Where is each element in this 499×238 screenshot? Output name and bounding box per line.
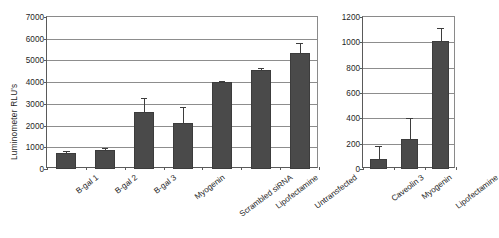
y-tick-label: 1000 bbox=[26, 143, 47, 152]
bar bbox=[95, 150, 115, 169]
error-bar-cap bbox=[219, 81, 225, 82]
bar bbox=[212, 82, 232, 169]
chart-panel-right: 020040060080010001200 Caveolin 3Myogenin… bbox=[320, 0, 459, 238]
x-tick-mark bbox=[456, 167, 457, 170]
y-tick-label: 0 bbox=[39, 165, 47, 174]
bar bbox=[134, 112, 154, 169]
x-tick-mark bbox=[394, 167, 395, 170]
error-bar-cap bbox=[296, 43, 302, 44]
error-bar-cap bbox=[258, 68, 264, 69]
error-bar bbox=[441, 28, 442, 41]
error-bar-cap bbox=[141, 98, 147, 99]
error-bar bbox=[144, 98, 145, 112]
y-tick-label: 4000 bbox=[26, 78, 47, 87]
gridline bbox=[47, 39, 317, 40]
gridline bbox=[47, 60, 317, 61]
bar bbox=[432, 41, 449, 169]
error-bar bbox=[300, 43, 301, 53]
plot-area-left: 01000200030004000500060007000 bbox=[46, 16, 318, 168]
x-tick-label: Myogenin bbox=[193, 173, 226, 201]
y-tick-label: 400 bbox=[346, 114, 363, 123]
x-tick-mark bbox=[86, 167, 87, 170]
gridline bbox=[47, 104, 317, 105]
y-tick-label: 1000 bbox=[342, 38, 363, 47]
x-tick-mark bbox=[425, 167, 426, 170]
x-tick-label: Myogenin bbox=[420, 173, 453, 201]
y-tick-label: 1200 bbox=[342, 13, 363, 22]
x-tick-mark bbox=[125, 167, 126, 170]
y-tick-label: 0 bbox=[355, 165, 363, 174]
bar bbox=[173, 123, 193, 169]
error-bar-cap bbox=[180, 107, 186, 108]
y-axis-label-left: Luminometer RLU's bbox=[9, 84, 19, 160]
gridline bbox=[47, 82, 317, 83]
error-bar bbox=[379, 146, 380, 159]
bar bbox=[401, 139, 418, 169]
y-tick-label: 3000 bbox=[26, 99, 47, 108]
y-tick-label: 200 bbox=[346, 139, 363, 148]
x-tick-label: Lipofectamine bbox=[454, 173, 499, 211]
y-tick-label: 2000 bbox=[26, 121, 47, 130]
error-bar-cap bbox=[102, 148, 108, 149]
y-tick-label: 7000 bbox=[26, 13, 47, 22]
chart-panel-left: Luminometer RLU's 0100020003000400050006… bbox=[0, 0, 320, 238]
x-tick-mark bbox=[363, 167, 364, 170]
bar bbox=[251, 70, 271, 169]
y-tick-label: 5000 bbox=[26, 56, 47, 65]
plot-area-right: 020040060080010001200 bbox=[362, 16, 455, 168]
y-tick-label: 800 bbox=[346, 63, 363, 72]
error-bar-cap bbox=[406, 118, 412, 119]
x-tick-mark bbox=[202, 167, 203, 170]
y-tick-label: 600 bbox=[346, 89, 363, 98]
x-tick-mark bbox=[164, 167, 165, 170]
x-tick-mark bbox=[47, 167, 48, 170]
error-bar bbox=[183, 107, 184, 123]
bar bbox=[56, 153, 76, 169]
x-tick-label: B-gal 3 bbox=[152, 173, 178, 196]
error-bar-cap bbox=[63, 151, 69, 152]
bar bbox=[370, 159, 387, 169]
x-tick-label: Caveolin 3 bbox=[389, 173, 425, 203]
x-tick-label: B-gal 1 bbox=[75, 173, 101, 196]
error-bar-cap bbox=[437, 28, 443, 29]
x-tick-label: B-gal 2 bbox=[113, 173, 139, 196]
bar bbox=[290, 53, 310, 169]
error-bar-cap bbox=[375, 146, 381, 147]
x-tick-mark bbox=[241, 167, 242, 170]
x-tick-mark bbox=[280, 167, 281, 170]
y-tick-label: 6000 bbox=[26, 34, 47, 43]
error-bar bbox=[410, 118, 411, 139]
